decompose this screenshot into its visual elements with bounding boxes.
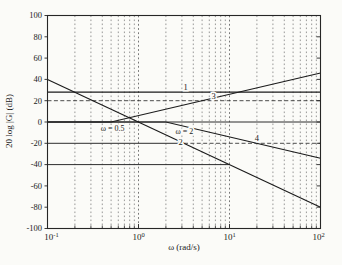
y-tick-label: 80	[34, 32, 43, 42]
y-tick-label: 60	[34, 53, 43, 63]
figure-background	[0, 0, 342, 265]
curve-label-2: 2	[178, 137, 182, 147]
y-tick-label: -100	[26, 223, 42, 233]
y-tick-label: 100	[29, 10, 42, 20]
bode-plot-canvas: 100806040200-20-40-60-80-10010-110010110…	[0, 0, 342, 265]
curve-label-4: 4	[255, 133, 260, 143]
y-tick-label: -20	[31, 138, 42, 148]
annotation-omega-2: ω = 2	[176, 127, 194, 136]
x-axis-title: ω (rad/s)	[168, 242, 200, 252]
y-tick-label: -40	[31, 159, 42, 169]
annotation-omega-0_5: ω = 0.5	[101, 124, 125, 133]
y-tick-label: 0	[38, 117, 42, 127]
y-tick-label: -60	[31, 181, 42, 191]
curve-label-3: 3	[212, 91, 216, 101]
bode-plot-figure: 100806040200-20-40-60-80-10010-110010110…	[0, 0, 342, 265]
y-tick-label: 20	[34, 96, 43, 106]
curve-label-1: 1	[184, 82, 188, 92]
y-tick-label: 40	[34, 74, 43, 84]
y-axis-title: 20 log |G| (dB)	[4, 94, 14, 148]
y-tick-label: -80	[31, 202, 42, 212]
